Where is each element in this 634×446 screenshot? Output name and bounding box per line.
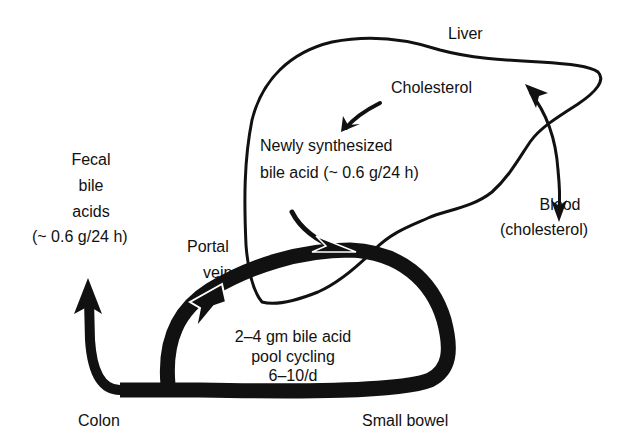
blood-arrowhead-up-icon [525,84,548,108]
blood-exchange-arrow [530,92,560,208]
blood-label-line1: Blood [525,195,595,214]
liver-label: Liver [448,24,483,43]
portal-vein-line2: vein [203,263,232,282]
fecal-label-line2: bile [66,176,116,195]
small-bowel-label: Small bowel [362,411,448,430]
portal-vein-line1: Portal [187,237,229,256]
cholesterol-arrow [346,103,380,128]
pool-label-line1: 2–4 gm bile acid [228,327,358,346]
pool-label-line3: 6–10/d [228,366,358,385]
fecal-label-line1: Fecal [66,150,116,169]
blood-label-line2: (cholesterol) [500,220,588,239]
fecal-arrow [89,300,170,390]
newly-synthesized-line1: Newly synthesized [260,136,393,155]
cholesterol-label: Cholesterol [391,78,472,97]
pool-label-line2: pool cycling [228,347,358,366]
colon-label: Colon [78,411,120,430]
fecal-label-line4: (~ 0.6 g/24 h) [32,227,128,246]
fecal-label-line3: acids [66,202,116,221]
bile-acid-diagram: Liver Cholesterol Newly synthesized bile… [0,0,634,446]
newly-synthesized-line2: bile acid (~ 0.6 g/24 h) [260,163,419,182]
